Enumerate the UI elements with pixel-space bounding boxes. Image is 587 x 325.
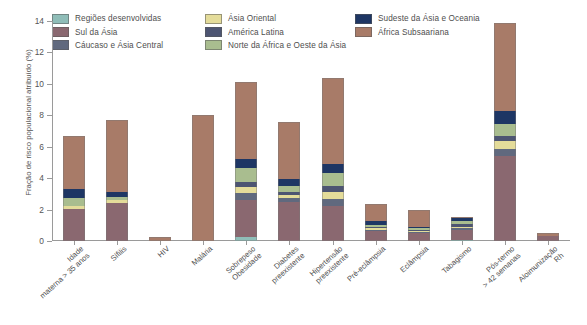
x-axis-label-text: Pós-termo > 42 semanas xyxy=(476,245,523,290)
bar-segment[interactable] xyxy=(235,200,257,237)
bar-segment[interactable] xyxy=(106,120,128,192)
x-axis-labels: Idade materna > 35 anosSífilisHIVMalária… xyxy=(52,245,570,323)
bar-segment[interactable] xyxy=(63,136,85,190)
stacked-bar-chart: Regiões desenvolvidasSul da ÁsiaCáucaso … xyxy=(0,0,587,325)
y-tick-label: 12 xyxy=(35,47,44,57)
x-axis-label-text: Hipertensão preexistente xyxy=(308,245,350,285)
bar-segment[interactable] xyxy=(322,192,344,199)
bar-segment[interactable] xyxy=(322,173,344,186)
bar-segment[interactable] xyxy=(235,82,257,158)
y-tick-label: 8 xyxy=(39,110,44,120)
bar-segment[interactable] xyxy=(235,159,257,168)
y-tick-mark xyxy=(47,241,52,242)
y-tick-label: 4 xyxy=(39,173,44,183)
y-tick-label: 0 xyxy=(39,236,44,246)
bar-segment[interactable] xyxy=(278,122,300,179)
x-axis-label-text: Eclâmpsia xyxy=(399,245,431,275)
bar-segment[interactable] xyxy=(322,78,344,164)
bar-4[interactable] xyxy=(192,115,214,242)
y-tick-label: 14 xyxy=(35,16,44,26)
bar-1[interactable] xyxy=(63,136,85,241)
y-axis-title: Fração de risco populacional atribuído (… xyxy=(24,3,33,243)
bar-segment[interactable] xyxy=(322,199,344,207)
bar-segment[interactable] xyxy=(192,115,214,242)
y-tick-label: 10 xyxy=(35,79,44,89)
bar-segment[interactable] xyxy=(494,149,516,156)
x-axis-label-text: Diabetes preexistente xyxy=(265,245,307,285)
bar-11[interactable] xyxy=(494,23,516,241)
y-tick-label: 2 xyxy=(39,205,44,215)
bar-segment[interactable] xyxy=(63,189,85,198)
bar-segment[interactable] xyxy=(494,23,516,111)
bar-segment[interactable] xyxy=(322,164,344,173)
bar-segment[interactable] xyxy=(235,193,257,200)
bar-segment[interactable] xyxy=(494,111,516,124)
bar-segment[interactable] xyxy=(494,141,516,149)
bar-segment[interactable] xyxy=(408,233,430,241)
bar-segment[interactable] xyxy=(63,198,85,206)
bar-segment[interactable] xyxy=(278,179,300,186)
bar-segment[interactable] xyxy=(235,168,257,182)
bar-segment[interactable] xyxy=(451,230,473,239)
bar-segment[interactable] xyxy=(494,124,516,136)
x-axis-label-text: Sífilis xyxy=(109,245,128,264)
y-tick-label: 6 xyxy=(39,142,44,152)
x-axis-label-text: Idade materna > 35 anos xyxy=(32,245,91,300)
x-axis-label-text: Malária xyxy=(191,245,215,268)
bar-5[interactable] xyxy=(235,82,257,241)
x-axis-label-text: Sobrepeso Obesidade xyxy=(225,245,264,282)
figure-footer xyxy=(0,317,587,325)
bar-segment[interactable] xyxy=(63,209,85,241)
x-axis-label-text: HIV xyxy=(156,245,171,260)
x-axis-label-text: Tabagismo xyxy=(441,245,474,276)
